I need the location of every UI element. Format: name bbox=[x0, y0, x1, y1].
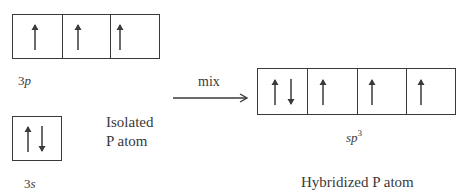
orbital-3p-cell-1 bbox=[13, 15, 62, 58]
electron-down-arrow-icon bbox=[37, 117, 47, 160]
isolated-atom-caption: Isolated P atom bbox=[106, 113, 153, 151]
orbital-sp3-cell-4 bbox=[406, 69, 454, 114]
orbital-3p-boxes bbox=[12, 14, 160, 59]
orbital-sp3-cell-1 bbox=[258, 69, 307, 114]
mix-label: mix bbox=[198, 74, 220, 90]
electron-up-arrow-icon bbox=[318, 69, 328, 114]
orbital-3s-label: 3s bbox=[24, 176, 36, 192]
orbital-3s-box bbox=[12, 116, 62, 161]
electron-up-arrow-icon bbox=[367, 69, 377, 114]
electron-up-arrow-icon bbox=[23, 117, 33, 160]
electron-up-arrow-icon bbox=[30, 15, 40, 58]
electron-up-arrow-icon bbox=[73, 15, 83, 58]
electron-up-arrow-icon bbox=[416, 69, 426, 114]
hybridized-atom-caption: Hybridized P atom bbox=[301, 173, 414, 192]
orbital-3s-cell-1 bbox=[13, 117, 60, 160]
electron-up-arrow-icon bbox=[115, 15, 125, 58]
orbital-3p-cell-2 bbox=[62, 15, 110, 58]
orbital-sp3-boxes bbox=[257, 68, 456, 115]
orbital-3p-cell-3 bbox=[110, 15, 158, 58]
orbital-sp3-label: sp3 bbox=[346, 128, 362, 146]
orbital-sp3-cell-2 bbox=[307, 69, 357, 114]
orbital-3p-label: 3p bbox=[18, 73, 31, 89]
orbital-sp3-cell-3 bbox=[357, 69, 406, 114]
electron-up-arrow-icon bbox=[270, 69, 280, 114]
electron-down-arrow-icon bbox=[286, 69, 296, 114]
mix-arrow-icon bbox=[173, 93, 249, 103]
